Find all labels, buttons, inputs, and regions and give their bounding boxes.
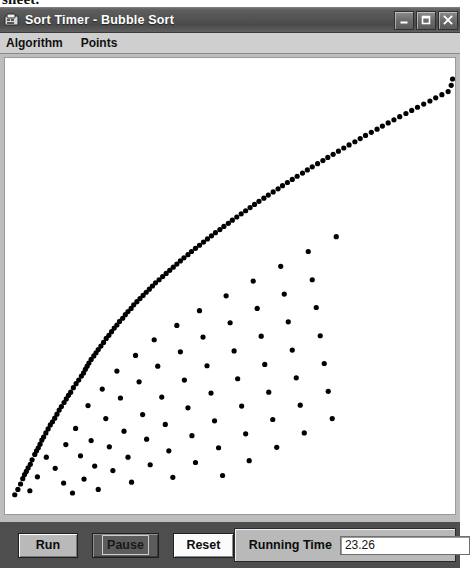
close-button[interactable] xyxy=(438,11,458,30)
background-document-text: sheet. xyxy=(2,0,122,6)
reset-button-label: Reset xyxy=(186,538,220,552)
scatter-plot-panel[interactable] xyxy=(4,57,456,515)
title-bar[interactable]: Sort Timer - Bubble Sort xyxy=(0,8,460,33)
window-title: Sort Timer - Bubble Sort xyxy=(25,13,392,27)
menu-item-algorithm[interactable]: Algorithm xyxy=(6,33,73,54)
run-button[interactable]: Run xyxy=(18,533,78,558)
run-button-label: Run xyxy=(36,538,60,552)
running-time-label: Running Time xyxy=(249,538,332,552)
pause-button[interactable]: Pause xyxy=(92,533,159,558)
running-time-field[interactable]: 23.26 xyxy=(340,536,470,555)
control-toolbar: Run Pause Reset Running Time 23.26 xyxy=(0,522,460,568)
pause-button-label: Pause xyxy=(105,538,146,552)
minimize-button[interactable] xyxy=(394,11,414,30)
menu-item-points[interactable]: Points xyxy=(81,33,128,54)
running-time-group: Running Time 23.26 xyxy=(234,528,456,562)
maximize-button[interactable] xyxy=(416,11,436,30)
scatter-plot-canvas xyxy=(5,58,455,514)
reset-button[interactable]: Reset xyxy=(173,533,234,558)
application-window: Sort Timer - Bubble Sort Algorithm xyxy=(0,7,460,568)
menu-bar: Algorithm Points xyxy=(0,33,460,54)
application-icon xyxy=(4,12,20,28)
